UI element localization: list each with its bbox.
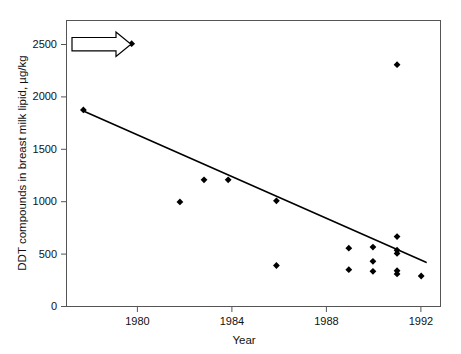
data-point: [345, 266, 352, 273]
data-point: [370, 244, 377, 251]
data-point: [201, 176, 208, 183]
data-point: [177, 198, 184, 205]
y-axis-ticks: [61, 45, 66, 307]
data-point: [273, 197, 280, 204]
regression-trend-line: [83, 111, 426, 262]
y-axis-title: DDT compounds in breast milk lipid, µg/k…: [16, 55, 28, 270]
y-tick-label: 1000: [33, 195, 57, 207]
data-point: [370, 268, 377, 275]
scatter-points-group: [80, 40, 425, 279]
ddt-scatter-chart: 2500 2000 1500 1000 500 0 1980 1984 1988…: [0, 0, 461, 354]
data-point: [345, 245, 352, 252]
data-point: [418, 273, 425, 280]
data-point: [394, 233, 401, 240]
y-tick-label: 0: [51, 300, 57, 312]
data-point: [225, 176, 232, 183]
data-point: [370, 258, 377, 265]
x-tick-label: 1992: [409, 315, 433, 327]
x-tick-label: 1988: [314, 315, 338, 327]
plot-frame: [67, 21, 441, 307]
x-tick-label: 1980: [125, 315, 149, 327]
x-tick-label: 1984: [220, 315, 244, 327]
data-point: [394, 61, 401, 68]
data-point: [273, 262, 280, 269]
x-axis-tick-labels: 1980 1984 1988 1992: [125, 315, 433, 327]
y-tick-label: 1500: [33, 143, 57, 155]
y-tick-label: 2000: [33, 90, 57, 102]
y-tick-label: 500: [39, 248, 57, 260]
outlier-callout-arrow: [72, 32, 131, 56]
y-axis-tick-labels: 2500 2000 1500 1000 500 0: [33, 38, 57, 312]
x-axis-ticks: [137, 307, 421, 312]
figure-container: 2500 2000 1500 1000 500 0 1980 1984 1988…: [0, 0, 461, 354]
y-tick-label: 2500: [33, 38, 57, 50]
x-axis-title: Year: [232, 334, 255, 346]
